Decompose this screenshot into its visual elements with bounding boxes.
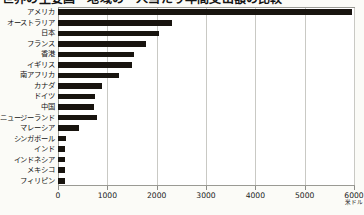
bar-6 [58, 73, 119, 79]
bar-8 [58, 94, 95, 100]
bar-label-13: インド [0, 145, 55, 153]
table-row: 南アフリカ [0, 70, 357, 81]
bar-label-4: 香港 [0, 50, 55, 58]
bar-9 [58, 104, 94, 110]
table-row: 香港 [0, 49, 357, 60]
chart-title-strip: 世界の主要国・地域の一人当たり年間支出額の比較 [0, 0, 357, 7]
table-row: インド [0, 144, 357, 155]
tick-6000 [354, 186, 355, 190]
bar-5 [58, 62, 132, 68]
tick-1000 [107, 186, 108, 190]
tick-label-0: 0 [56, 191, 61, 200]
bar-11 [58, 125, 79, 131]
table-row: 日本 [0, 28, 357, 39]
table-row: ニュージーランド [0, 112, 357, 123]
axis-unit-label: 米ドル [345, 199, 363, 206]
table-row: イギリス [0, 60, 357, 71]
tick-4000 [255, 186, 256, 190]
tick-5000 [305, 186, 306, 190]
bar-label-7: カナダ [0, 82, 55, 90]
table-row: フランス [0, 39, 357, 50]
bar-label-3: フランス [0, 40, 55, 48]
x-axis: 0100020003000400050006000米ドル [0, 186, 357, 215]
bar-label-16: フィリピン [0, 177, 55, 185]
bar-rows: アメリカオーストラリア日本フランス香港イギリス南アフリカカナダドイツ中国ニュージ… [0, 7, 357, 186]
bar-16 [58, 178, 65, 184]
table-row: フィリピン [0, 175, 357, 186]
bar-13 [58, 146, 65, 152]
tick-3000 [206, 186, 207, 190]
tick-label-2000: 2000 [147, 191, 166, 200]
bar-label-5: イギリス [0, 61, 55, 69]
tick-label-3000: 3000 [196, 191, 215, 200]
bar-label-6: 南アフリカ [0, 71, 55, 79]
bar-label-15: メキシコ [0, 166, 55, 174]
bar-7 [58, 83, 102, 89]
bar-label-12: シンガポール [0, 135, 55, 143]
bar-12 [58, 136, 66, 142]
page-title: 世界の主要国・地域の一人当たり年間支出額の比較 [2, 0, 283, 5]
table-row: アメリカ [0, 7, 357, 18]
tick-0 [58, 186, 59, 190]
bar-label-9: 中国 [0, 103, 55, 111]
bar-label-8: ドイツ [0, 92, 55, 100]
bar-label-10: ニュージーランド [0, 114, 55, 122]
table-row: マレーシア [0, 123, 357, 134]
table-row: メキシコ [0, 165, 357, 176]
bar-label-1: オーストラリア [0, 19, 55, 27]
bar-label-0: アメリカ [0, 8, 55, 16]
tick-label-4000: 4000 [246, 191, 265, 200]
table-row: 中国 [0, 102, 357, 113]
table-row: オーストラリア [0, 18, 357, 29]
table-row: ドイツ [0, 91, 357, 102]
bar-3 [58, 41, 146, 47]
bar-15 [58, 167, 65, 173]
bar-label-2: 日本 [0, 29, 55, 37]
bar-0 [58, 9, 352, 15]
bar-label-11: マレーシア [0, 124, 55, 132]
tick-2000 [157, 186, 158, 190]
bar-4 [58, 52, 134, 58]
bar-2 [58, 31, 159, 37]
tick-label-5000: 5000 [295, 191, 314, 200]
bar-label-14: インドネシア [0, 156, 55, 164]
table-row: インドネシア [0, 154, 357, 165]
bar-1 [58, 20, 172, 26]
table-row: シンガポール [0, 133, 357, 144]
table-row: カナダ [0, 81, 357, 92]
bar-14 [58, 157, 65, 163]
tick-label-1000: 1000 [98, 191, 117, 200]
bar-10 [58, 115, 97, 121]
